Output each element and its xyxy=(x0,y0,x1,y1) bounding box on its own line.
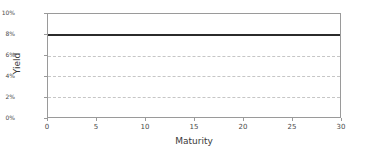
y-axis-label: Yield xyxy=(12,34,23,94)
series-line-flat-yield-curve xyxy=(48,34,340,36)
x-axis-label: Maturity xyxy=(47,136,341,147)
gridline-4pct xyxy=(48,76,340,77)
ytick-mark-8pct xyxy=(44,34,47,35)
ytick-label-10pct: 10% xyxy=(0,10,15,16)
xtick-mark-15 xyxy=(194,118,195,121)
ytick-mark-6pct xyxy=(44,55,47,56)
xtick-label-25: 25 xyxy=(277,123,307,131)
xtick-label-15: 15 xyxy=(179,123,209,131)
xtick-mark-10 xyxy=(145,118,146,121)
plot-area xyxy=(47,13,341,118)
gridline-6pct xyxy=(48,56,340,57)
xtick-mark-20 xyxy=(243,118,244,121)
xtick-label-5: 5 xyxy=(81,123,111,131)
ytick-label-0pct: 0% xyxy=(0,115,15,121)
gridline-2pct xyxy=(48,97,340,98)
xtick-label-20: 20 xyxy=(228,123,258,131)
xtick-label-10: 10 xyxy=(130,123,160,131)
ytick-label-2pct: 2% xyxy=(0,94,15,100)
xtick-label-30: 30 xyxy=(326,123,356,131)
ytick-mark-2pct xyxy=(44,97,47,98)
yield-curve-chart: 10% 8% 6% 4% 2% 0% 0 5 10 15 20 25 30 Ma… xyxy=(0,0,365,161)
ytick-mark-10pct xyxy=(44,13,47,14)
xtick-mark-0 xyxy=(47,118,48,121)
xtick-mark-30 xyxy=(341,118,342,121)
xtick-label-0: 0 xyxy=(32,123,62,131)
xtick-mark-25 xyxy=(292,118,293,121)
ytick-mark-4pct xyxy=(44,76,47,77)
xtick-mark-5 xyxy=(96,118,97,121)
